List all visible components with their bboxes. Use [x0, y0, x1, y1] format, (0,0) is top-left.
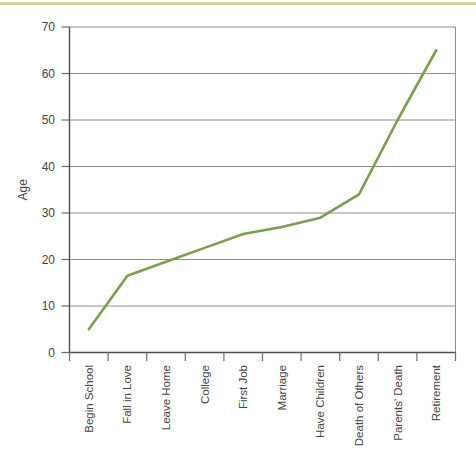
- x-category-label: Death of Others: [353, 365, 365, 446]
- y-axis-title: Age: [16, 179, 30, 201]
- x-category-label: Leave Home: [160, 365, 172, 430]
- y-tick-label: 40: [42, 160, 56, 174]
- y-tick-label: 50: [42, 113, 56, 127]
- chart-canvas: 010203040506070Begin SchoolFall in LoveL…: [0, 0, 476, 463]
- y-tick-label: 30: [42, 206, 56, 220]
- x-category-label: College: [199, 365, 211, 404]
- x-category-label: First Job: [237, 365, 249, 409]
- x-category-label: Retirement: [430, 364, 442, 421]
- x-category-label: Parents' Death: [392, 365, 404, 441]
- y-tick-label: 60: [42, 67, 56, 81]
- x-category-label: Have Children: [314, 365, 326, 438]
- life-events-age-line-chart: 010203040506070Begin SchoolFall in LoveL…: [0, 0, 476, 463]
- x-category-label: Marriage: [276, 365, 288, 410]
- y-tick-label: 0: [48, 346, 55, 360]
- y-tick-label: 20: [42, 253, 56, 267]
- x-category-label: Fall in Love: [121, 365, 133, 424]
- data-line: [89, 50, 436, 329]
- x-category-label: Begin School: [83, 365, 95, 433]
- y-tick-label: 10: [42, 299, 56, 313]
- y-tick-label: 70: [42, 20, 56, 34]
